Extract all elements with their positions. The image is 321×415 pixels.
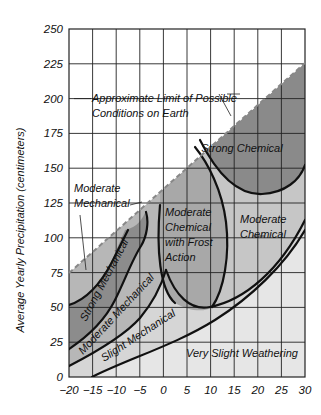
svg-text:−20: −20 bbox=[59, 384, 79, 396]
svg-text:125: 125 bbox=[44, 197, 64, 209]
label-mcf-1: Moderate bbox=[165, 206, 211, 218]
svg-text:50: 50 bbox=[50, 301, 63, 313]
svg-text:30: 30 bbox=[299, 384, 312, 396]
label-mc-1: Moderate bbox=[240, 213, 286, 225]
svg-text:5: 5 bbox=[184, 384, 191, 396]
svg-text:150: 150 bbox=[44, 162, 64, 174]
label-mcf-4: Action bbox=[164, 251, 196, 263]
svg-text:−15: −15 bbox=[83, 384, 103, 396]
x-axis-ticks: −20 −15 −10 −5 0 5 10 15 20 25 30 bbox=[59, 384, 312, 396]
svg-text:−10: −10 bbox=[106, 384, 126, 396]
svg-text:10: 10 bbox=[204, 384, 217, 396]
svg-text:15: 15 bbox=[228, 384, 241, 396]
svg-text:25: 25 bbox=[49, 336, 63, 348]
label-limit-2: Conditions on Earth bbox=[92, 107, 189, 119]
label-mcf-3: with Frost bbox=[165, 236, 214, 248]
svg-text:20: 20 bbox=[250, 384, 264, 396]
svg-text:0: 0 bbox=[57, 371, 64, 383]
label-mm-top-2: Mechanical bbox=[74, 197, 130, 209]
svg-text:25: 25 bbox=[274, 384, 288, 396]
y-axis-ticks: 0 25 50 75 100 125 150 175 200 225 250 bbox=[43, 23, 64, 383]
svg-text:0: 0 bbox=[160, 384, 167, 396]
y-axis-title: Average Yearly Precipitation (centimeter… bbox=[14, 127, 26, 333]
svg-text:200: 200 bbox=[43, 93, 64, 105]
weathering-chart: 0 25 50 75 100 125 150 175 200 225 250 −… bbox=[0, 0, 321, 415]
svg-text:−5: −5 bbox=[133, 384, 147, 396]
label-very-slight: Very Slight Weathering bbox=[186, 347, 299, 359]
svg-text:225: 225 bbox=[43, 58, 64, 70]
svg-text:175: 175 bbox=[44, 127, 64, 139]
label-mc-2: Chemical bbox=[240, 228, 286, 240]
label-strong-chemical: Strong Chemical bbox=[201, 142, 283, 154]
label-mm-top-1: Moderate bbox=[74, 182, 120, 194]
label-limit-1: Approximate Limit of Possible bbox=[91, 92, 237, 104]
label-mcf-2: Chemical bbox=[165, 221, 211, 233]
svg-text:250: 250 bbox=[43, 23, 64, 35]
svg-text:75: 75 bbox=[50, 267, 63, 279]
svg-text:100: 100 bbox=[44, 232, 64, 244]
